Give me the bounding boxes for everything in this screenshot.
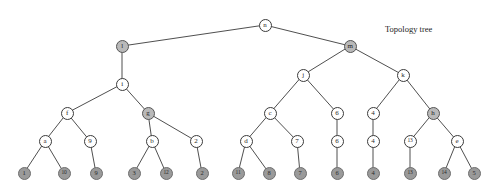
node-label: 6 <box>335 109 338 116</box>
node-label: b <box>150 137 153 144</box>
node-label: a <box>44 137 47 144</box>
tree-internal-node-thir_m[interactable]: 13 <box>404 135 417 148</box>
node-label: 14 <box>441 170 446 176</box>
tree-leaf-node-L6[interactable]: 6 <box>331 167 344 180</box>
tree-internal-node-six_m[interactable]: 6 <box>331 135 344 148</box>
tree-leaf-node-L8[interactable]: 8 <box>263 167 276 180</box>
node-label: 7 <box>295 137 298 144</box>
topology-tree-figure: nlmijkfgc64ha9b2d76413e11093122118764131… <box>0 0 496 193</box>
node-label: e <box>456 137 459 144</box>
tree-internal-node-four_hi[interactable]: 4 <box>367 107 380 120</box>
node-label: m <box>347 42 352 49</box>
node-label: 2 <box>194 137 197 144</box>
tree-internal-node-m[interactable]: m <box>344 40 357 53</box>
node-label: l <box>121 42 123 49</box>
tree-internal-node-four_m[interactable]: 4 <box>367 135 380 148</box>
node-label: 10 <box>61 170 66 176</box>
node-label: 3 <box>132 170 135 177</box>
node-label: 11 <box>236 170 241 176</box>
tree-leaf-node-L11[interactable]: 11 <box>232 167 245 180</box>
tree-leaf-node-L10[interactable]: 10 <box>58 167 71 180</box>
tree-leaf-node-L13[interactable]: 13 <box>404 167 417 180</box>
tree-internal-node-d[interactable]: d <box>240 135 253 148</box>
node-label: 4 <box>371 109 374 116</box>
tree-leaf-node-L7[interactable]: 7 <box>294 167 307 180</box>
tree-leaf-node-L14[interactable]: 14 <box>438 167 451 180</box>
tree-internal-node-k[interactable]: k <box>397 69 410 82</box>
tree-internal-node-six_hi[interactable]: 6 <box>331 107 344 120</box>
chart-title: Topology tree <box>385 24 432 34</box>
tree-leaf-node-L1[interactable]: 1 <box>18 167 31 180</box>
tree-internal-node-g[interactable]: g <box>142 107 155 120</box>
tree-internal-node-l[interactable]: l <box>116 40 129 53</box>
tree-internal-node-n[interactable]: n <box>259 19 272 32</box>
tree-internal-node-a[interactable]: a <box>39 135 52 148</box>
tree-internal-node-c1[interactable]: c <box>264 107 277 120</box>
node-label: 9 <box>88 137 91 144</box>
tree-internal-node-j[interactable]: j <box>297 69 310 82</box>
tree-leaf-node-L5[interactable]: 5 <box>468 167 481 180</box>
node-label: 1 <box>22 170 25 177</box>
tree-leaf-node-L2[interactable]: 2 <box>196 167 209 180</box>
tree-leaf-node-L4[interactable]: 4 <box>367 167 380 180</box>
node-label: 2 <box>200 170 203 177</box>
tree-internal-node-seven_m[interactable]: 7 <box>291 135 304 148</box>
node-label: 7 <box>298 170 301 177</box>
node-label: d <box>244 137 247 144</box>
node-label: c <box>269 109 272 116</box>
node-label: 5 <box>472 170 475 177</box>
tree-leaf-node-L9[interactable]: 9 <box>90 167 103 180</box>
node-label: k <box>401 71 404 78</box>
tree-leaf-node-L3[interactable]: 3 <box>128 167 141 180</box>
node-label: f <box>66 109 68 116</box>
tree-internal-node-f[interactable]: f <box>61 107 74 120</box>
node-label: i <box>121 80 123 87</box>
node-label: g <box>146 109 149 116</box>
node-label: j <box>302 71 304 78</box>
tree-internal-node-b[interactable]: b <box>146 135 159 148</box>
tree-internal-node-h[interactable]: h <box>427 107 440 120</box>
node-label: h <box>431 109 434 116</box>
node-label: 6 <box>335 137 338 144</box>
tree-internal-node-two_m[interactable]: 2 <box>190 135 203 148</box>
node-label: 4 <box>371 137 374 144</box>
tree-internal-node-e[interactable]: e <box>451 135 464 148</box>
node-label: 8 <box>267 170 270 177</box>
node-label: 4 <box>371 170 374 177</box>
node-label: 9 <box>94 170 97 177</box>
tree-internal-node-i[interactable]: i <box>116 78 129 91</box>
node-label: 13 <box>407 138 412 144</box>
tree-internal-node-nine_m[interactable]: 9 <box>84 135 97 148</box>
node-label: 6 <box>335 170 338 177</box>
tree-leaf-node-L12[interactable]: 12 <box>160 167 173 180</box>
node-label: 13 <box>407 170 412 176</box>
node-label: n <box>263 21 266 28</box>
node-label: 12 <box>163 170 168 176</box>
